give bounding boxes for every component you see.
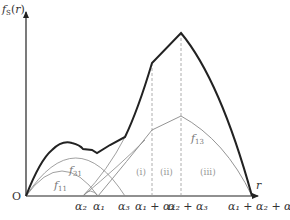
region-iii-label: (iii) (200, 168, 216, 177)
curve-small-arc (83, 191, 98, 196)
curve-f13 (98, 116, 252, 196)
tick-alpha1: α₁ (93, 201, 105, 212)
diagram-canvas (0, 0, 290, 220)
tick-alpha2-plus-alpha3: α₂ + α₃ (168, 201, 208, 212)
region-i-label: (i) (136, 168, 146, 177)
tick-alpha1-plus-alpha2-plus-alpha3: α₁ + α₂ + α₃ (228, 201, 290, 212)
convolution-density-diagram: fS(r) r O α₂ α₁ α₃ α₁ + α₂ α₂ + α₃ α₁ + … (0, 0, 290, 220)
tick-alpha2: α₂ (75, 201, 87, 212)
tick-alpha3: α₃ (118, 201, 130, 212)
label-f31: f31 (69, 165, 82, 178)
origin-label: O (12, 191, 21, 202)
x-axis-label: r (256, 180, 261, 191)
label-f11: f11 (54, 180, 67, 193)
y-axis-label: fS(r) (2, 4, 25, 17)
region-ii-label: (ii) (160, 168, 173, 177)
label-f13: f13 (191, 133, 204, 146)
